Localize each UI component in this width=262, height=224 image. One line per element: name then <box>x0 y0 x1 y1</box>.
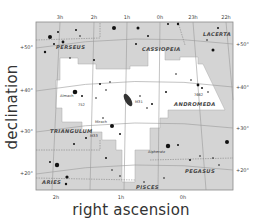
ra-ticks-bottom: 2h 1h 0h <box>53 194 186 200</box>
svg-text:+50°: +50° <box>236 41 250 47</box>
svg-text:+40°: +40° <box>236 84 250 90</box>
svg-text:22h: 22h <box>221 14 231 20</box>
svg-text:+30°: +30° <box>236 125 250 131</box>
dec-ticks-right: +50° +40° +30° +20° <box>236 41 250 173</box>
svg-text:+30°: +30° <box>20 128 34 134</box>
label-perseus: PERSEUS <box>56 44 85 50</box>
label-mirach: Mirach <box>95 120 107 124</box>
y-axis-label: declination <box>3 57 21 157</box>
svg-text:23h: 23h <box>188 14 198 20</box>
label-752: 752 <box>78 103 85 107</box>
label-m33: M33 <box>90 134 98 138</box>
svg-text:+50°: +50° <box>20 44 34 50</box>
label-pisces: PISCES <box>136 184 159 190</box>
label-lacerta: LACERTA <box>203 31 231 37</box>
dec-ticks-left: +50° +40° +30° +20° <box>20 44 34 176</box>
star-chart: 3h 2h 1h 0h 23h 22h 2h 1h 0h +50° +40° +… <box>0 0 262 224</box>
label-pegasus: PEGASUS <box>185 168 215 174</box>
label-aries: ARIES <box>41 179 61 185</box>
x-axis-label: right ascension <box>0 201 262 219</box>
svg-text:3h: 3h <box>57 14 63 20</box>
label-almach: Almach <box>60 94 73 98</box>
svg-text:2h: 2h <box>91 14 97 20</box>
svg-text:1h: 1h <box>118 194 124 200</box>
label-cassiopeia: CASSIOPEIA <box>142 46 181 52</box>
svg-text:0h: 0h <box>180 194 186 200</box>
label-alpheratz: Alpheratz <box>148 150 165 154</box>
svg-text:+20°: +20° <box>20 170 34 176</box>
label-m31: M31 <box>135 100 143 104</box>
svg-text:2h: 2h <box>53 194 59 200</box>
label-triangulum: TRIANGULUM <box>50 128 93 134</box>
svg-text:1h: 1h <box>124 14 130 20</box>
ra-ticks-top: 3h 2h 1h 0h 23h 22h <box>57 14 231 20</box>
label-7662: 7662 <box>194 93 203 97</box>
svg-text:+20°: +20° <box>236 167 250 173</box>
svg-text:0h: 0h <box>157 14 163 20</box>
svg-text:+40°: +40° <box>20 87 34 93</box>
label-andromeda: ANDROMEDA <box>173 101 216 107</box>
